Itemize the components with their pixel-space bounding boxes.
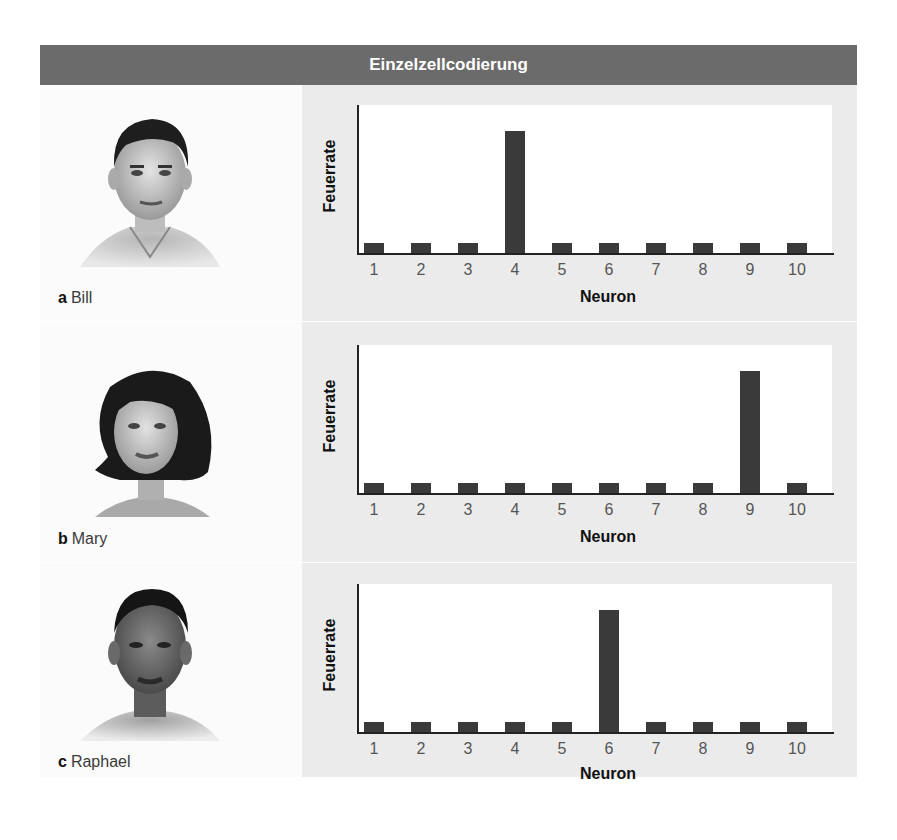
- row-label: bMary: [58, 530, 107, 548]
- y-axis: [357, 105, 359, 255]
- bar-neuron-6: [599, 610, 619, 732]
- row-letter: b: [58, 530, 68, 547]
- row-letter: a: [58, 289, 67, 306]
- y-axis: [357, 584, 359, 734]
- bar-neuron-7: [646, 483, 666, 493]
- row-letter: c: [58, 753, 67, 770]
- x-tick-label: 4: [500, 261, 530, 279]
- y-axis: [357, 345, 359, 495]
- chart-panel: Feuerrate 12345678910 Neuron: [302, 85, 857, 321]
- x-tick-label: 9: [735, 740, 765, 758]
- x-tick-label: 4: [500, 501, 530, 519]
- plot-area: [357, 345, 832, 493]
- bar-neuron-5: [552, 483, 572, 493]
- row-raphael: cRaphael Feuerrate 12345678910 Neuron: [40, 563, 857, 777]
- plot-area: [357, 105, 832, 253]
- portrait-panel: cRaphael: [40, 563, 302, 777]
- x-tick-label: 3: [453, 740, 483, 758]
- x-axis: [357, 732, 834, 734]
- bar-neuron-2: [411, 483, 431, 493]
- x-tick-label: 7: [641, 501, 671, 519]
- x-tick-label: 1: [359, 501, 389, 519]
- x-axis-label: Neuron: [548, 528, 668, 546]
- x-tick-label: 10: [782, 261, 812, 279]
- x-tick-label: 8: [688, 501, 718, 519]
- x-tick-label: 9: [735, 501, 765, 519]
- row-label: aBill: [58, 289, 92, 307]
- x-tick-label: 8: [688, 740, 718, 758]
- x-tick-label: 10: [782, 740, 812, 758]
- bar-neuron-9: [740, 243, 760, 253]
- x-tick-label: 5: [547, 261, 577, 279]
- bar-neuron-7: [646, 243, 666, 253]
- row-name: Bill: [71, 289, 92, 306]
- bar-neuron-7: [646, 722, 666, 732]
- row-label: cRaphael: [58, 753, 131, 771]
- bar-neuron-5: [552, 243, 572, 253]
- y-axis-label: Feuerrate: [321, 380, 339, 453]
- y-axis-label: Feuerrate: [321, 619, 339, 692]
- row-bill: aBill Feuerrate 12345678910 Neuron: [40, 85, 857, 321]
- x-tick-label: 6: [594, 740, 624, 758]
- x-tick-label: 2: [406, 261, 436, 279]
- row-name: Mary: [72, 530, 108, 547]
- figure-title: Einzelzellcodierung: [40, 45, 857, 85]
- x-axis: [357, 253, 834, 255]
- bar-neuron-8: [693, 243, 713, 253]
- x-tick-label: 10: [782, 501, 812, 519]
- x-tick-label: 3: [453, 501, 483, 519]
- row-name: Raphael: [71, 753, 131, 770]
- bar-neuron-4: [505, 131, 525, 253]
- bar-neuron-9: [740, 371, 760, 493]
- bar-neuron-2: [411, 722, 431, 732]
- x-axis: [357, 493, 834, 495]
- bar-neuron-2: [411, 243, 431, 253]
- bar-neuron-9: [740, 722, 760, 732]
- bar-neuron-3: [458, 722, 478, 732]
- bar-neuron-3: [458, 243, 478, 253]
- bar-neuron-10: [787, 722, 807, 732]
- x-tick-label: 4: [500, 740, 530, 758]
- bar-neuron-5: [552, 722, 572, 732]
- x-tick-label: 7: [641, 740, 671, 758]
- x-tick-label: 5: [547, 501, 577, 519]
- bar-neuron-1: [364, 243, 384, 253]
- bar-neuron-6: [599, 483, 619, 493]
- bar-neuron-1: [364, 722, 384, 732]
- bar-neuron-10: [787, 243, 807, 253]
- x-tick-label: 6: [594, 261, 624, 279]
- face-raphael-icon: [60, 571, 240, 741]
- x-tick-label: 1: [359, 740, 389, 758]
- x-tick-label: 1: [359, 261, 389, 279]
- x-tick-label: 3: [453, 261, 483, 279]
- x-axis-label: Neuron: [548, 765, 668, 783]
- chart-panel: Feuerrate 12345678910 Neuron: [302, 322, 857, 562]
- bar-neuron-3: [458, 483, 478, 493]
- bar-neuron-1: [364, 483, 384, 493]
- bar-neuron-6: [599, 243, 619, 253]
- x-tick-label: 6: [594, 501, 624, 519]
- x-tick-label: 8: [688, 261, 718, 279]
- bar-neuron-8: [693, 722, 713, 732]
- chart-panel: Feuerrate 12345678910 Neuron: [302, 563, 857, 777]
- face-mary-icon: [60, 352, 240, 522]
- bar-neuron-4: [505, 722, 525, 732]
- x-tick-label: 2: [406, 740, 436, 758]
- bar-neuron-10: [787, 483, 807, 493]
- x-tick-label: 2: [406, 501, 436, 519]
- bar-neuron-8: [693, 483, 713, 493]
- figure: Einzelzellcodierung aBill: [40, 45, 857, 777]
- plot-area: [357, 584, 832, 732]
- x-tick-label: 9: [735, 261, 765, 279]
- row-mary: bMary Feuerrate 12345678910 Neuron: [40, 322, 857, 562]
- x-tick-label: 5: [547, 740, 577, 758]
- y-axis-label: Feuerrate: [321, 140, 339, 213]
- portrait-panel: bMary: [40, 322, 302, 562]
- face-bill-icon: [60, 97, 240, 277]
- x-axis-label: Neuron: [548, 288, 668, 306]
- portrait-panel: aBill: [40, 85, 302, 321]
- bar-neuron-4: [505, 483, 525, 493]
- x-tick-label: 7: [641, 261, 671, 279]
